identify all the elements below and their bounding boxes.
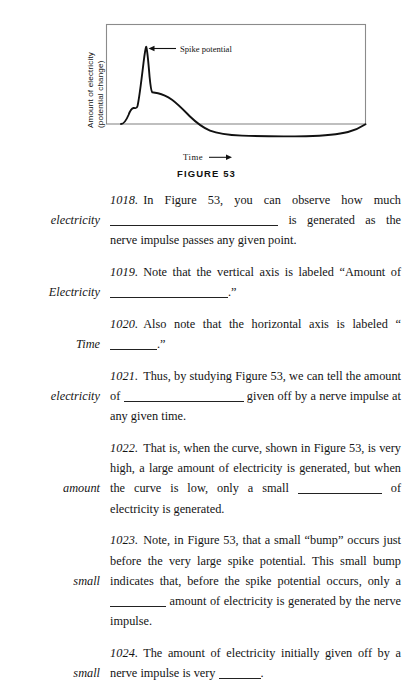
frame-number: 1019. (110, 265, 138, 279)
answer-key: electricity (0, 210, 100, 230)
plot-frame (107, 25, 366, 125)
frame-item: electricity1021.Thus, by studying Figure… (0, 366, 413, 427)
frame-number: 1021. (110, 369, 138, 383)
action-potential-curve (121, 47, 366, 137)
frame-item: small1023.Note, in Figure 53, that a sma… (0, 530, 413, 631)
spike-potential-label: Spike potential (180, 44, 232, 54)
frame-body: 1023.Note, in Figure 53, that a small “b… (110, 530, 401, 631)
frame-item: Time1020.Also note that the horizontal a… (0, 314, 413, 354)
y-axis-label-line1: Amount of electricity (86, 51, 95, 128)
answer-key: Electricity (0, 282, 100, 302)
frame-body: 1021.Thus, by studying Figure 53, we can… (110, 366, 401, 427)
x-axis-label: Time (183, 152, 203, 162)
y-axis-label-group: Amount of electricity (potential change) (86, 51, 105, 128)
right-arrow-icon (226, 155, 232, 160)
fill-in-blank[interactable] (219, 666, 261, 679)
frame-body: 1024.The amount of electricity initially… (110, 643, 401, 680)
figure-caption: FIGURE 53 (0, 168, 413, 179)
frame-item: electricity1018.In Figure 53, you can ob… (0, 190, 413, 251)
frame-number: 1023. (110, 533, 138, 547)
frame-number: 1018. (110, 193, 138, 207)
frame-number: 1020. (110, 317, 138, 331)
frame-item: small1024.The amount of electricity init… (0, 643, 413, 680)
answer-key: electricity (0, 386, 100, 406)
frame-body: 1022.That is, when the curve, shown in F… (110, 438, 401, 519)
fill-in-blank[interactable] (124, 389, 244, 402)
frame-body: 1018.In Figure 53, you can observe how m… (110, 190, 401, 251)
frame-item: amount1022.That is, when the curve, show… (0, 438, 413, 519)
frame-body: 1019.Note that the vertical axis is labe… (110, 262, 401, 302)
frame-body: 1020.Also note that the horizontal axis … (110, 314, 401, 354)
annotation-arrowhead-icon (149, 46, 155, 51)
fill-in-blank[interactable] (110, 213, 278, 226)
fill-in-blank[interactable] (110, 594, 166, 607)
x-axis-label-group: Time (183, 152, 232, 162)
frame-number: 1024. (110, 646, 138, 660)
y-axis-label-line2: (potential change) (96, 60, 105, 128)
figure-53-graph: Spike potential Amount of electricity (p… (0, 0, 413, 190)
fill-in-blank[interactable] (110, 285, 228, 298)
frame-item: Electricity1019.Note that the vertical a… (0, 262, 413, 302)
frame-number: 1022. (110, 441, 138, 455)
answer-key: amount (0, 478, 100, 498)
figure-53-block: Spike potential Amount of electricity (p… (0, 0, 413, 190)
answer-key: small (0, 571, 100, 591)
spike-potential-annotation: Spike potential (149, 44, 233, 54)
fill-in-blank[interactable] (298, 481, 382, 494)
programmed-text-items: electricity1018.In Figure 53, you can ob… (0, 190, 413, 680)
answer-key: small (0, 663, 100, 680)
answer-key: Time (0, 334, 100, 354)
fill-in-blank[interactable] (110, 337, 157, 350)
